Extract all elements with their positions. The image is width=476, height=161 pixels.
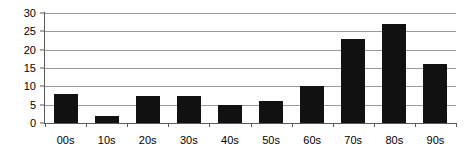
x-axis-tick-label: 20s [127,134,168,146]
x-axis-tick-label: 40s [209,134,250,146]
x-axis-tick-mark [415,123,416,127]
x-axis-category: 50s [251,123,292,161]
bar-chart: 051015202530 00s10s20s30s40s50s60s70s80s… [0,0,476,161]
x-axis-category: 80s [374,123,415,161]
x-axis-category: 70s [333,123,374,161]
bar-slot [127,13,168,123]
bar-slot [209,13,250,123]
bar-slot [45,13,86,123]
y-axis-tick-label: 25 [0,26,36,37]
x-axis-end-tick [456,123,457,161]
x-axis-tick-label: 30s [168,134,209,146]
bar[interactable] [177,96,201,124]
y-axis-tick-label: 20 [0,44,36,55]
x-axis-tick-label: 70s [333,134,374,146]
bar[interactable] [423,64,447,123]
bars-layer [45,13,456,123]
x-axis-category: 40s [209,123,250,161]
y-axis-tick-label: 5 [0,99,36,110]
x-axis-tick-mark [374,123,375,127]
bar-slot [86,13,127,123]
x-axis-tick-mark [86,123,87,127]
x-axis-tick-mark [251,123,252,127]
y-axis-tick-label: 15 [0,63,36,74]
bar-slot [251,13,292,123]
bar[interactable] [382,24,406,123]
x-axis-tick-label: 80s [374,134,415,146]
x-axis-category: 20s [127,123,168,161]
y-axis-tick-label: 30 [0,8,36,19]
x-axis-tick-label: 50s [251,134,292,146]
bar[interactable] [300,86,324,123]
bar-slot [292,13,333,123]
bar-slot [168,13,209,123]
bar[interactable] [95,116,119,123]
x-axis-tick-label: 60s [292,134,333,146]
bar[interactable] [218,105,242,123]
x-axis-tick-mark [333,123,334,127]
x-axis-tick-mark [168,123,169,127]
x-axis-tick-mark [127,123,128,127]
x-axis-category: 10s [86,123,127,161]
x-axis-tick-mark [292,123,293,127]
x-axis-category: 30s [168,123,209,161]
bar[interactable] [54,94,78,123]
bar[interactable] [136,96,160,124]
x-axis-tick-mark [209,123,210,127]
bar-slot [415,13,456,123]
x-axis-category: 00s [45,123,86,161]
y-axis-tick-label: 10 [0,81,36,92]
y-axis-tick-label: 0 [0,118,36,129]
x-axis-category: 60s [292,123,333,161]
bar-slot [374,13,415,123]
bar-slot [333,13,374,123]
bar[interactable] [259,101,283,123]
x-axis-labels: 00s10s20s30s40s50s60s70s80s90s [45,123,456,161]
y-axis-labels: 051015202530 [0,0,36,161]
x-axis-tick-label: 90s [415,134,456,146]
x-axis-tick-mark [45,123,46,127]
x-axis-tick-label: 00s [45,134,86,146]
x-axis-category: 90s [415,123,456,161]
x-axis-tick-mark [456,123,457,127]
x-axis-tick-label: 10s [86,134,127,146]
bar[interactable] [341,39,365,123]
